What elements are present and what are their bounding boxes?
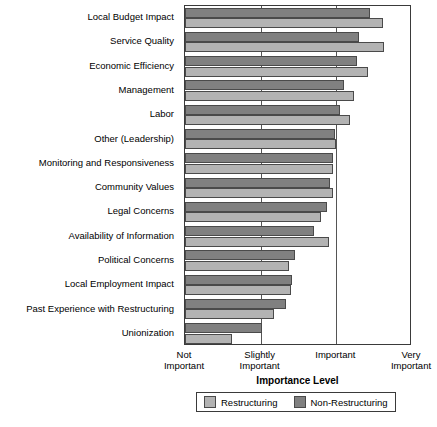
bar-non-restructuring [185, 56, 357, 66]
category-label: Local Budget Impact [0, 12, 180, 22]
bar-restructuring [185, 212, 321, 222]
bar-chart: Local Budget ImpactService QualityEconom… [0, 0, 437, 427]
category-label: Community Values [0, 182, 180, 192]
bar-restructuring [185, 139, 336, 149]
bar-non-restructuring [185, 299, 286, 309]
legend-label-restructuring: Restructuring [221, 397, 278, 408]
chart-legend: Restructuring Non-Restructuring [196, 392, 396, 412]
bar-non-restructuring [185, 226, 314, 236]
bar-non-restructuring [185, 178, 330, 188]
bar-restructuring [185, 188, 333, 198]
bar-non-restructuring [185, 250, 295, 260]
category-label: Local Employment Impact [0, 279, 180, 289]
bar-non-restructuring [185, 202, 327, 212]
legend-swatch-restructuring [204, 396, 216, 408]
bar-restructuring [185, 261, 289, 271]
legend-swatch-non-restructuring [294, 396, 306, 408]
category-label: Management [0, 85, 180, 95]
bar-non-restructuring [185, 129, 335, 139]
category-label: Unionization [0, 328, 180, 338]
bar-restructuring [185, 115, 350, 125]
bar-restructuring [185, 91, 354, 101]
legend-item-non-restructuring: Non-Restructuring [294, 396, 388, 408]
x-tick-label: Important [295, 349, 375, 360]
category-label: Monitoring and Responsiveness [0, 158, 180, 168]
bar-restructuring [185, 42, 384, 52]
bar-restructuring [185, 334, 232, 344]
x-axis-tick-labels: Not ImportantSlightly ImportantImportant… [0, 349, 437, 377]
x-axis-title: Importance Level [184, 375, 411, 386]
category-label: Service Quality [0, 36, 180, 46]
bar-non-restructuring [185, 32, 359, 42]
bar-non-restructuring [185, 80, 344, 90]
x-tick-label: Not Important [144, 349, 224, 371]
bar-restructuring [185, 237, 329, 247]
bar-non-restructuring [185, 153, 333, 163]
x-tick-label: Slightly Important [220, 349, 300, 371]
bar-non-restructuring [185, 323, 262, 333]
category-label: Past Experience with Restructuring [0, 304, 180, 314]
bar-restructuring [185, 18, 383, 28]
bar-non-restructuring [185, 105, 340, 115]
category-label: Legal Concerns [0, 206, 180, 216]
bar-restructuring [185, 67, 368, 77]
legend-label-non-restructuring: Non-Restructuring [311, 397, 388, 408]
category-label: Economic Efficiency [0, 61, 180, 71]
bar-restructuring [185, 164, 333, 174]
bar-non-restructuring [185, 8, 370, 18]
plot-area [184, 5, 411, 345]
category-label: Political Concerns [0, 255, 180, 265]
legend-item-restructuring: Restructuring [204, 396, 278, 408]
category-label: Other (Leadership) [0, 134, 180, 144]
bar-restructuring [185, 309, 274, 319]
bar-restructuring [185, 285, 291, 295]
category-axis: Local Budget ImpactService QualityEconom… [0, 0, 180, 345]
bar-non-restructuring [185, 275, 292, 285]
category-label: Availability of Information [0, 231, 180, 241]
category-label: Labor [0, 109, 180, 119]
x-tick-label: Very Important [371, 349, 437, 371]
